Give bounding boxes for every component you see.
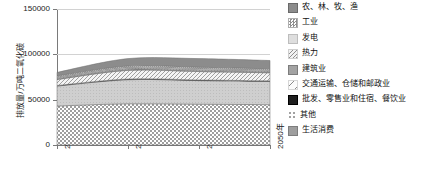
legend-swatch-icon <box>288 34 298 44</box>
legend-label: 建筑业 <box>302 64 326 74</box>
legend-label: 工业 <box>302 17 318 27</box>
legend-item[interactable]: 交通运输、仓储和邮政业 <box>288 79 445 90</box>
legend-label: 发电 <box>302 33 318 43</box>
legend-swatch-icon <box>288 111 296 119</box>
legend-item[interactable]: 其他 <box>288 110 445 121</box>
chart-figure: 排放量/万吨二氧化碳 050000100000150000 2018年2030年… <box>0 0 445 191</box>
legend-item[interactable]: 工业 <box>288 17 445 28</box>
legend-swatch-icon <box>288 65 298 75</box>
legend-swatch-icon <box>288 126 298 136</box>
legend-label: 其他 <box>300 110 316 120</box>
area-band <box>57 79 270 106</box>
legend-swatch-icon <box>288 80 298 90</box>
legend-label: 交通运输、仓储和邮政业 <box>302 79 390 89</box>
legend-label: 热力 <box>302 48 318 58</box>
legend-item[interactable]: 建筑业 <box>288 64 445 75</box>
legend-swatch-icon <box>288 49 298 59</box>
legend-item[interactable]: 农、林、牧、渔 <box>288 2 445 13</box>
area-band <box>57 104 270 145</box>
legend-item[interactable]: 批发、零售业和住宿、餐饮业 <box>288 94 445 105</box>
legend-item[interactable]: 发电 <box>288 33 445 44</box>
legend-label: 农、林、牧、渔 <box>302 2 358 12</box>
legend-label: 生活消费 <box>302 125 334 135</box>
legend-item[interactable]: 热力 <box>288 48 445 59</box>
legend-swatch-icon <box>288 18 298 28</box>
legend-label: 批发、零售业和住宿、餐饮业 <box>302 94 406 104</box>
legend-swatch-icon <box>288 3 298 13</box>
legend-item[interactable]: 生活消费 <box>288 125 445 136</box>
legend: 农、林、牧、渔 工业 发电 热力 建筑业 交通运输、仓储和邮政业 批发、零售业和… <box>288 2 445 141</box>
legend-swatch-icon <box>288 95 298 105</box>
